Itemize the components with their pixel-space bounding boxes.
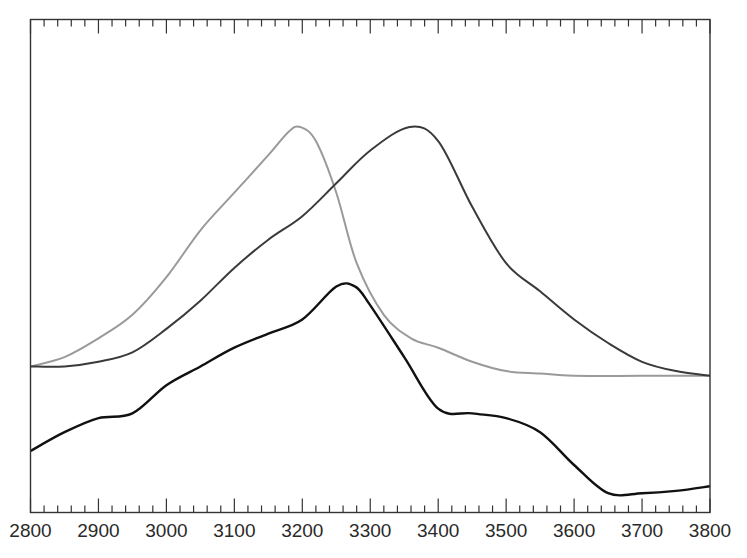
line-chart: 2800290030003100320033003400350036003700… <box>0 0 747 558</box>
x-tick-label: 2900 <box>77 520 119 541</box>
x-tick-label: 3300 <box>349 520 391 541</box>
gray-curve <box>31 126 711 376</box>
x-tick-label: 3100 <box>213 520 255 541</box>
x-tick-label: 2800 <box>9 520 51 541</box>
x-tick-label: 3000 <box>145 520 187 541</box>
dark-curve <box>31 127 711 376</box>
x-tick-label: 3400 <box>417 520 459 541</box>
x-axis-tick-labels: 2800290030003100320033003400350036003700… <box>9 520 731 541</box>
x-tick-label: 3600 <box>553 520 595 541</box>
x-tick-label: 3500 <box>485 520 527 541</box>
x-tick-label: 3800 <box>689 520 731 541</box>
x-tick-label: 3200 <box>281 520 323 541</box>
x-tick-label: 3700 <box>621 520 663 541</box>
plot-curves <box>31 126 711 495</box>
axis-ticks <box>31 20 711 513</box>
plot-frame <box>31 20 711 513</box>
